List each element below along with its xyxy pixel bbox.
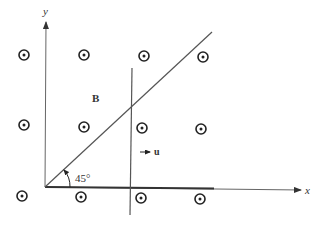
- field-label: B: [92, 92, 100, 104]
- horizontal-rail: [45, 187, 214, 189]
- y-axis-label: y: [42, 5, 48, 17]
- field-out-of-page-icon: [139, 51, 149, 61]
- field-out-of-page-icon: [76, 192, 86, 202]
- y-axis: [45, 22, 46, 187]
- angle-label: 45°: [75, 172, 90, 184]
- moving-rod: [130, 68, 132, 215]
- field-out-of-page-icon: [17, 191, 27, 201]
- field-out-of-page-icon: [195, 194, 205, 204]
- field-out-of-page-icon: [19, 50, 29, 60]
- field-out-of-page-icon: [137, 123, 147, 133]
- x-axis-label: x: [304, 184, 310, 196]
- angle-arc-icon: [64, 170, 70, 187]
- field-out-of-page-icon: [19, 120, 29, 130]
- magnetic-field-diagram: y x 45° B u: [0, 0, 324, 225]
- field-out-of-page-icon: [79, 122, 89, 132]
- diagonal-rail: [45, 32, 212, 187]
- velocity-label: u: [154, 146, 160, 157]
- field-out-of-page-icon: [79, 50, 89, 60]
- field-out-of-page-icon: [136, 193, 146, 203]
- field-out-of-page-icon: [198, 52, 208, 62]
- field-out-of-page-icon: [196, 124, 206, 134]
